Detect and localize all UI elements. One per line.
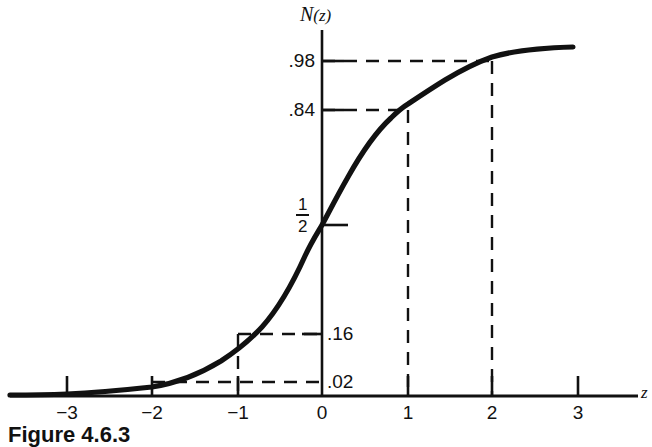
y-tick-label-16: .16: [327, 324, 387, 343]
y-tick-label-half: 1 2: [296, 196, 309, 235]
x-tick-label--3: −3: [47, 403, 87, 422]
y-axis-label: N(z): [300, 4, 331, 24]
x-tick-label--1: −1: [218, 403, 258, 422]
y-tick-label-02: .02: [327, 372, 387, 391]
half-numerator: 1: [296, 196, 309, 214]
y-tick-label-84: .84: [255, 100, 315, 119]
y-axis-label-arg: (z): [313, 6, 331, 25]
x-tick-label-0: 0: [302, 403, 342, 422]
x-tick-label-3: 3: [558, 403, 598, 422]
half-denominator: 2: [296, 217, 309, 235]
figure-caption: Figure 4.6.3: [8, 424, 130, 446]
fraction-bar: [296, 214, 309, 216]
x-tick-label-1: 1: [388, 403, 428, 422]
y-axis-label-base: N: [300, 3, 313, 25]
x-tick-label-2: 2: [472, 403, 512, 422]
y-tick-label-98: .98: [255, 51, 315, 70]
x-tick-label--2: −2: [132, 403, 172, 422]
x-axis-label: z: [641, 384, 648, 401]
